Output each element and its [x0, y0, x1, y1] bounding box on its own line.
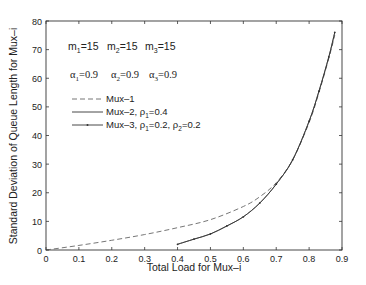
line-chart: 00.10.20.30.40.50.60.70.80.9010203040506… [0, 0, 366, 285]
series-marker [177, 243, 179, 245]
series-marker [318, 90, 320, 92]
y-tick-label: 80 [32, 17, 42, 27]
series-marker [334, 32, 336, 34]
series-marker [226, 225, 228, 227]
parameter-text: m1=15 [68, 40, 99, 54]
x-tick-label: 0.8 [303, 254, 316, 264]
y-tick-label: 0 [37, 246, 42, 256]
y-tick-label: 60 [32, 74, 42, 84]
legend-label-1: Mux–1 [106, 93, 135, 104]
chart-container: 00.10.20.30.40.50.60.70.80.9010203040506… [0, 0, 366, 285]
y-tick-label: 40 [32, 131, 42, 141]
parameter-text: m2=15 [107, 40, 138, 54]
series-marker [193, 238, 195, 240]
y-tick-label: 20 [32, 188, 42, 198]
plot-area [46, 21, 342, 250]
x-tick-label: 0 [43, 254, 48, 264]
series-marker [308, 120, 310, 122]
y-tick-label: 10 [32, 217, 42, 227]
x-tick-label: 0.9 [336, 254, 349, 264]
series-marker [328, 56, 330, 58]
y-tick-label: 70 [32, 45, 42, 55]
legend-label-3: Mux–3, ρ1=0.2, ρ2=0.2 [106, 119, 201, 132]
x-tick-label: 0.1 [73, 254, 86, 264]
series-marker [259, 202, 261, 204]
series-marker [242, 216, 244, 218]
series-marker [210, 233, 212, 235]
y-tick-label: 50 [32, 102, 42, 112]
series-marker [292, 159, 294, 161]
x-axis-label: Total Load for Mux–i [147, 261, 242, 273]
legend-marker [87, 124, 89, 126]
y-axis-label: Standard Deviation of Queue Length for M… [7, 28, 19, 245]
plot-frame [46, 21, 342, 250]
y-tick-label: 30 [32, 160, 42, 170]
legend-label-2: Mux–2, ρ1=0.4 [106, 106, 168, 119]
series-marker [275, 183, 277, 185]
x-tick-label: 0.2 [106, 254, 119, 264]
parameter-text: m3=15 [145, 40, 176, 54]
x-tick-label: 0.7 [270, 254, 283, 264]
